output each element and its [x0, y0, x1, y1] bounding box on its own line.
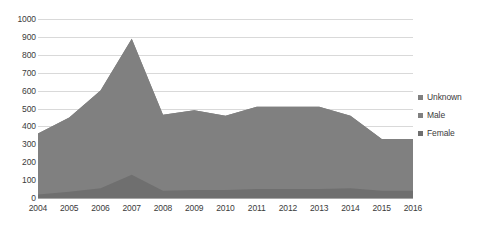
legend-swatch-icon: [418, 131, 423, 136]
x-axis-tick-label: 2014: [341, 203, 360, 213]
y-axis: 10009008007006005004003002001000: [0, 0, 36, 230]
x-axis-baseline: [38, 198, 413, 199]
legend-item-female[interactable]: Female: [418, 124, 482, 142]
y-axis-tick-label: 500: [2, 105, 36, 113]
x-axis-tick-label: 2010: [216, 203, 235, 213]
legend-item-unknown[interactable]: Unknown: [418, 88, 482, 106]
y-axis-tick-label: 200: [2, 158, 36, 166]
x-axis-tick-label: 2011: [248, 203, 266, 213]
area-series-male: [38, 39, 413, 198]
x-axis-tick-label: 2013: [310, 203, 329, 213]
y-axis-tick-label: 100: [2, 176, 36, 184]
y-axis-tick-label: 700: [2, 69, 36, 77]
y-axis-tick-label: 0: [2, 194, 36, 202]
x-axis-tick-label: 2007: [122, 203, 141, 213]
x-axis-tick-label: 2008: [154, 203, 173, 213]
legend-label: Female: [427, 129, 455, 138]
legend-label: Male: [427, 111, 445, 120]
y-axis-tick-label: 300: [2, 140, 36, 148]
y-axis-tick-label: 1000: [2, 15, 36, 23]
x-axis-tick-label: 2004: [29, 203, 48, 213]
x-axis-tick-label: 2009: [185, 203, 204, 213]
x-axis-tick-label: 2012: [279, 203, 298, 213]
x-axis-tick-label: 2006: [91, 203, 110, 213]
y-axis-tick-label: 600: [2, 87, 36, 95]
legend-swatch-icon: [418, 95, 423, 100]
chart-legend: UnknownMaleFemale: [418, 88, 482, 142]
legend-label: Unknown: [427, 93, 462, 102]
y-axis-tick-label: 900: [2, 33, 36, 41]
legend-item-male[interactable]: Male: [418, 106, 482, 124]
y-axis-tick-label: 800: [2, 51, 36, 59]
stacked-area-series: [38, 19, 413, 198]
y-axis-tick-label: 400: [2, 122, 36, 130]
x-axis-tick-label: 2015: [372, 203, 391, 213]
plot-area: [38, 19, 413, 198]
x-axis: 2004200520062007200820092010201120122013…: [38, 203, 413, 223]
x-axis-tick-label: 2016: [404, 203, 423, 213]
area-chart: 10009008007006005004003002001000 2004200…: [0, 0, 483, 230]
x-axis-tick-label: 2005: [60, 203, 79, 213]
legend-swatch-icon: [418, 113, 423, 118]
